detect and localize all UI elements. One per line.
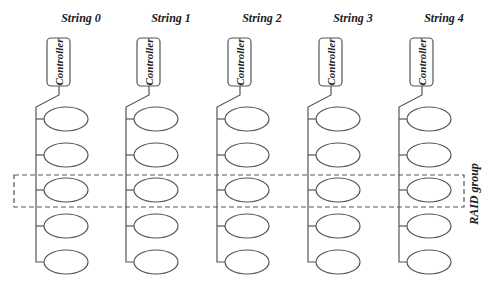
controller-label: Controller — [143, 38, 155, 86]
disk-list — [126, 107, 178, 274]
disk-0 — [225, 107, 269, 131]
controller-label: Controller — [53, 38, 65, 86]
disk-1 — [225, 143, 269, 167]
disk-list — [399, 107, 451, 274]
disk-list — [36, 107, 88, 274]
raid-group-label: RAID group — [467, 163, 481, 226]
string-1: String 1 Controller — [126, 11, 191, 274]
disk-0 — [316, 107, 360, 131]
disk-3 — [316, 214, 360, 238]
disk-4 — [44, 250, 88, 274]
disk-4 — [407, 250, 451, 274]
disk-0 — [134, 107, 178, 131]
disk-2 — [316, 178, 360, 202]
disk-4 — [316, 250, 360, 274]
string-label: String 2 — [242, 11, 282, 25]
disk-1 — [407, 143, 451, 167]
disk-1 — [316, 143, 360, 167]
disk-3 — [407, 214, 451, 238]
disk-3 — [44, 214, 88, 238]
disk-4 — [225, 250, 269, 274]
string-label: String 0 — [61, 11, 101, 25]
string-label: String 3 — [333, 11, 373, 25]
disk-3 — [225, 214, 269, 238]
string-label: String 4 — [424, 11, 464, 25]
disk-0 — [407, 107, 451, 131]
raid-diagram: RAID group String 0 Controller String 1 … — [0, 0, 489, 294]
disk-4 — [134, 250, 178, 274]
disk-2 — [407, 178, 451, 202]
string-2: String 2 Controller — [217, 11, 282, 274]
disk-2 — [134, 178, 178, 202]
disk-list — [308, 107, 360, 274]
disk-2 — [225, 178, 269, 202]
disk-2 — [44, 178, 88, 202]
controller-label: Controller — [325, 38, 337, 86]
string-4: String 4 Controller — [399, 11, 464, 274]
controller-label: Controller — [234, 38, 246, 86]
string-0: String 0 Controller — [36, 11, 101, 274]
disk-list — [217, 107, 269, 274]
disk-3 — [134, 214, 178, 238]
disk-1 — [44, 143, 88, 167]
disk-0 — [44, 107, 88, 131]
string-label: String 1 — [151, 11, 191, 25]
disk-1 — [134, 143, 178, 167]
controller-label: Controller — [416, 38, 428, 86]
string-3: String 3 Controller — [308, 11, 373, 274]
